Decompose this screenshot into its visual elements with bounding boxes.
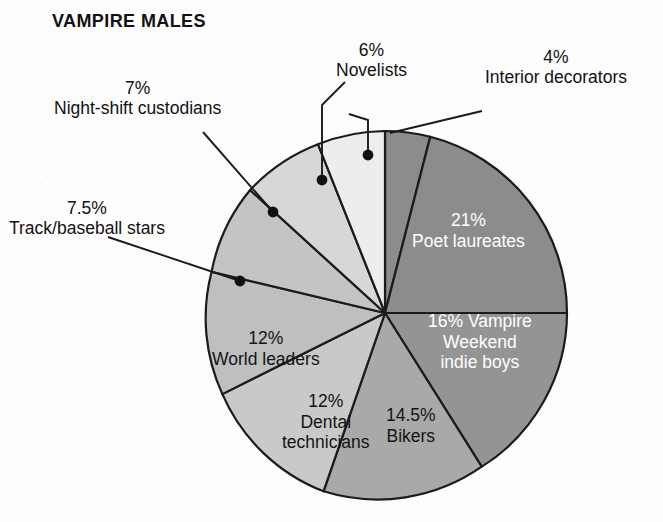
- inner-line3-vampire-weekend: indie boys: [428, 352, 532, 373]
- inner-line3-dental: technicians: [282, 432, 370, 453]
- callout-value-night-shift-custodians: 7%: [54, 78, 221, 98]
- leader-dot-night-shift-custodians: [268, 207, 279, 218]
- callout-interior-decorators: 4% Interior decorators: [485, 47, 627, 88]
- callout-label-interior-decorators: Interior decorators: [485, 67, 627, 87]
- inner-text-poet-laureates: Poet laureates: [412, 231, 525, 251]
- callout-label-night-shift-custodians: Night-shift custodians: [54, 98, 221, 118]
- inner-value-poet-laureates: 21%: [412, 210, 525, 231]
- inner-text-bikers: Bikers: [387, 426, 436, 446]
- callout-novelists: 6% Novelists: [336, 40, 407, 81]
- inner-label-bikers: 14.5% Bikers: [386, 405, 436, 446]
- inner-line1-vampire-weekend: 16% Vampire: [428, 311, 532, 332]
- inner-label-vampire-weekend-indie-boys: 16% Vampire Weekend indie boys: [428, 311, 532, 373]
- callout-night-shift-custodians: 7% Night-shift custodians: [54, 78, 221, 119]
- callout-value-interior-decorators: 4%: [485, 47, 627, 67]
- callout-track-baseball-stars: 7.5% Track/baseball stars: [9, 198, 165, 239]
- inner-label-dental-technicians: 12% Dental technicians: [282, 391, 370, 453]
- inner-value-world-leaders: 12%: [212, 328, 320, 349]
- callout-value-novelists: 6%: [336, 40, 407, 60]
- inner-line1-dental: 12%: [282, 391, 370, 412]
- leader-dot-track-baseball-stars: [235, 276, 246, 287]
- inner-label-world-leaders: 12% World leaders: [212, 328, 320, 369]
- leader-dot-novelists: [317, 175, 328, 186]
- leader-dot-novelists-secondary: [363, 150, 374, 161]
- callout-value-track-baseball-stars: 7.5%: [9, 198, 165, 218]
- callout-label-track-baseball-stars: Track/baseball stars: [9, 218, 165, 238]
- leader-line-interior-decorators: [390, 111, 482, 133]
- inner-label-poet-laureates: 21% Poet laureates: [412, 210, 525, 251]
- inner-text-world-leaders: World leaders: [212, 349, 320, 369]
- callout-label-novelists: Novelists: [336, 60, 407, 80]
- inner-value-bikers: 14.5%: [386, 405, 436, 426]
- inner-line2-dental: Dental: [282, 412, 370, 433]
- inner-line2-vampire-weekend: Weekend: [428, 332, 532, 353]
- leader-line-night-shift-custodians: [203, 132, 273, 212]
